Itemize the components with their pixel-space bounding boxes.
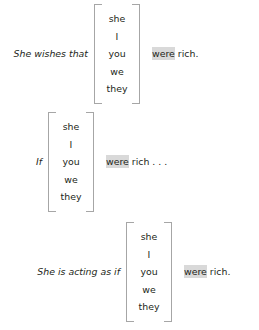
pronoun-item: I <box>148 246 151 264</box>
pronoun-item: I <box>70 136 73 154</box>
example-block-1: She wishes that she I you we they were r… <box>0 4 198 104</box>
example-block-3: She is acting as if she I you we they we… <box>0 222 230 322</box>
tail-text: were rich. <box>152 49 198 58</box>
pronoun-item: we <box>110 63 123 81</box>
pronoun-item: we <box>142 281 155 299</box>
lead-in-text: She is acting as if <box>0 267 120 276</box>
tail-remainder: rich. <box>207 266 231 277</box>
tail-remainder: rich . . . <box>129 156 167 167</box>
pronoun-item: she <box>141 228 158 246</box>
tail-text: were rich . . . <box>106 157 167 166</box>
pronoun-bracket-group: she I you we they <box>48 112 94 212</box>
pronoun-item: they <box>139 298 160 316</box>
lead-in-text: If <box>0 157 42 166</box>
highlighted-verb: were <box>152 47 175 60</box>
lead-in-text: She wishes that <box>0 49 88 58</box>
pronoun-item: I <box>116 28 119 46</box>
pronoun-item: she <box>63 118 80 136</box>
pronoun-item: you <box>140 263 157 281</box>
pronoun-item: she <box>109 10 126 28</box>
pronoun-item: you <box>108 45 125 63</box>
pronoun-bracket-group: she I you we they <box>126 222 172 322</box>
highlighted-verb: were <box>184 265 207 278</box>
pronoun-bracket-group: she I you we they <box>94 4 140 104</box>
pronoun-item: we <box>64 171 77 189</box>
example-block-2: If she I you we they were rich . . . <box>0 112 167 212</box>
pronoun-item: they <box>107 80 128 98</box>
pronoun-item: you <box>62 153 79 171</box>
tail-remainder: rich. <box>175 48 199 59</box>
tail-text: were rich. <box>184 267 230 276</box>
pronoun-item: they <box>61 188 82 206</box>
highlighted-verb: were <box>106 155 129 168</box>
